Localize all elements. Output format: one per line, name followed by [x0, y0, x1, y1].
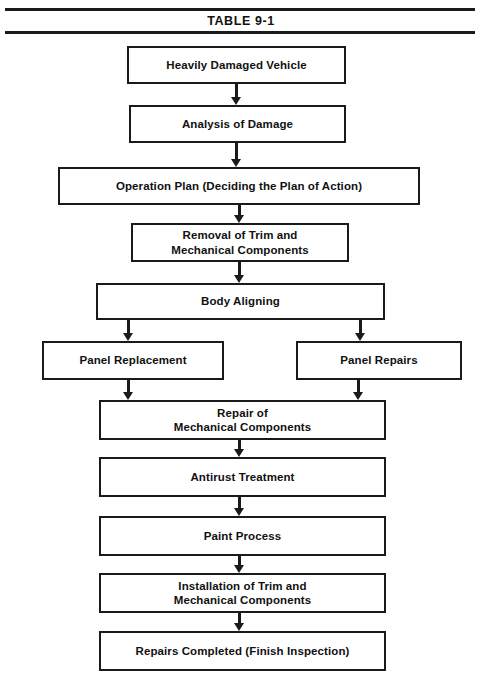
node-label: Paint Process: [198, 529, 287, 544]
node-label: Repairs Completed (Finish Inspection): [130, 644, 356, 659]
node-label: Installation of Trim and Mechanical Comp…: [168, 579, 318, 608]
node-analysis-of-damage: Analysis of Damage: [129, 105, 346, 143]
node-label: Body Aligning: [195, 294, 286, 309]
node-label: Panel Replacement: [73, 353, 192, 368]
node-label: Panel Repairs: [334, 353, 423, 368]
title-rule-top: [5, 8, 475, 11]
node-label: Operation Plan (Deciding the Plan of Act…: [110, 179, 368, 194]
node-removal-of-trim: Removal of Trim and Mechanical Component…: [131, 223, 349, 262]
node-label: Removal of Trim and Mechanical Component…: [165, 228, 315, 257]
node-repairs-completed: Repairs Completed (Finish Inspection): [99, 631, 386, 671]
node-installation-of-trim: Installation of Trim and Mechanical Comp…: [99, 573, 386, 613]
node-operation-plan: Operation Plan (Deciding the Plan of Act…: [58, 167, 420, 205]
node-heavily-damaged-vehicle: Heavily Damaged Vehicle: [127, 46, 346, 84]
node-label: Heavily Damaged Vehicle: [160, 58, 312, 73]
node-panel-repairs: Panel Repairs: [296, 341, 462, 380]
title-rule-bottom: [5, 31, 475, 34]
node-label: Antirust Treatment: [184, 470, 300, 485]
table-9-1-flowchart-page: TABLE 9-1 Heavily Damaged Vehicle Analys…: [0, 0, 482, 680]
node-repair-of-mechanical: Repair of Mechanical Components: [99, 400, 386, 440]
node-paint-process: Paint Process: [99, 516, 386, 556]
node-antirust-treatment: Antirust Treatment: [99, 457, 386, 497]
node-panel-replacement: Panel Replacement: [42, 341, 224, 380]
node-label: Repair of Mechanical Components: [168, 406, 318, 435]
page-title: TABLE 9-1: [0, 13, 482, 29]
node-label: Analysis of Damage: [176, 117, 299, 132]
node-body-aligning: Body Aligning: [96, 283, 385, 320]
